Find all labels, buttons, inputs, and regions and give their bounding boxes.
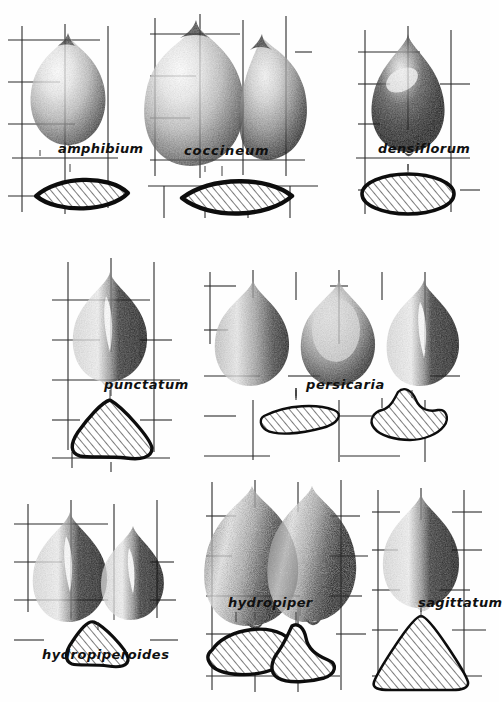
seed-persicaria-2 (301, 280, 375, 386)
seed-punctatum (73, 272, 147, 387)
section-persicaria-lens (261, 406, 339, 434)
section-punctatum (72, 400, 152, 459)
species-label-densiflorum: densiflorum (378, 142, 470, 155)
species-label-hydropiperoides: hydropiperoides (42, 648, 169, 661)
section-persicaria-trilobed (372, 389, 447, 440)
species-label-coccineum: coccineum (184, 144, 269, 157)
species-label-amphibium: amphibium (58, 142, 144, 155)
seed-amphibium (31, 33, 106, 146)
seed-hydropiperoides-2 (101, 526, 164, 620)
seed-persicaria-1 (215, 280, 289, 386)
section-amphibium (36, 180, 128, 209)
species-label-punctatum: punctatum (104, 378, 189, 391)
section-densiflorum (362, 174, 454, 214)
species-label-sagittatum: sagittatum (418, 596, 503, 609)
species-label-persicaria: persicaria (306, 378, 385, 391)
seed-persicaria-3 (387, 280, 459, 386)
species-label-hydropiper: hydropiper (228, 596, 313, 609)
seed-hydropiperoides-1 (33, 512, 107, 622)
seed-drawings (31, 20, 460, 629)
section-sagittatum (374, 616, 468, 690)
seed-coccineum-right (239, 34, 307, 160)
